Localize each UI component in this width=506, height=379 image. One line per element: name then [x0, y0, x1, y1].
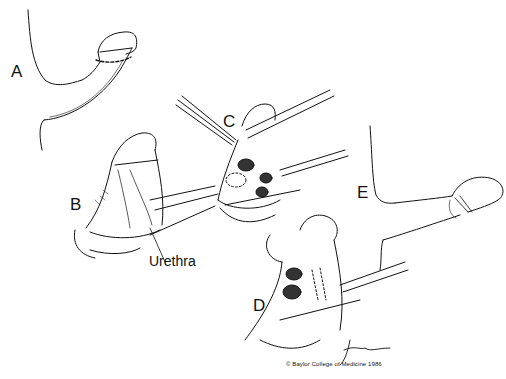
panel-label-a: A — [11, 63, 22, 80]
panel-c-drawing — [176, 90, 348, 222]
panel-a-drawing — [28, 10, 137, 150]
panel-e-drawing — [370, 126, 503, 270]
panel-b-drawing — [74, 133, 218, 262]
urethra-label: Urethra — [149, 254, 196, 268]
line-drawing — [0, 0, 506, 379]
panel-d-drawing — [245, 215, 408, 348]
panel-label-e: E — [357, 184, 368, 201]
panel-label-c: C — [223, 113, 235, 130]
copyright-notice: © Baylor College of Medicine 1986 — [286, 361, 382, 367]
panel-label-b: B — [70, 196, 81, 213]
panel-label-d: D — [253, 297, 265, 314]
